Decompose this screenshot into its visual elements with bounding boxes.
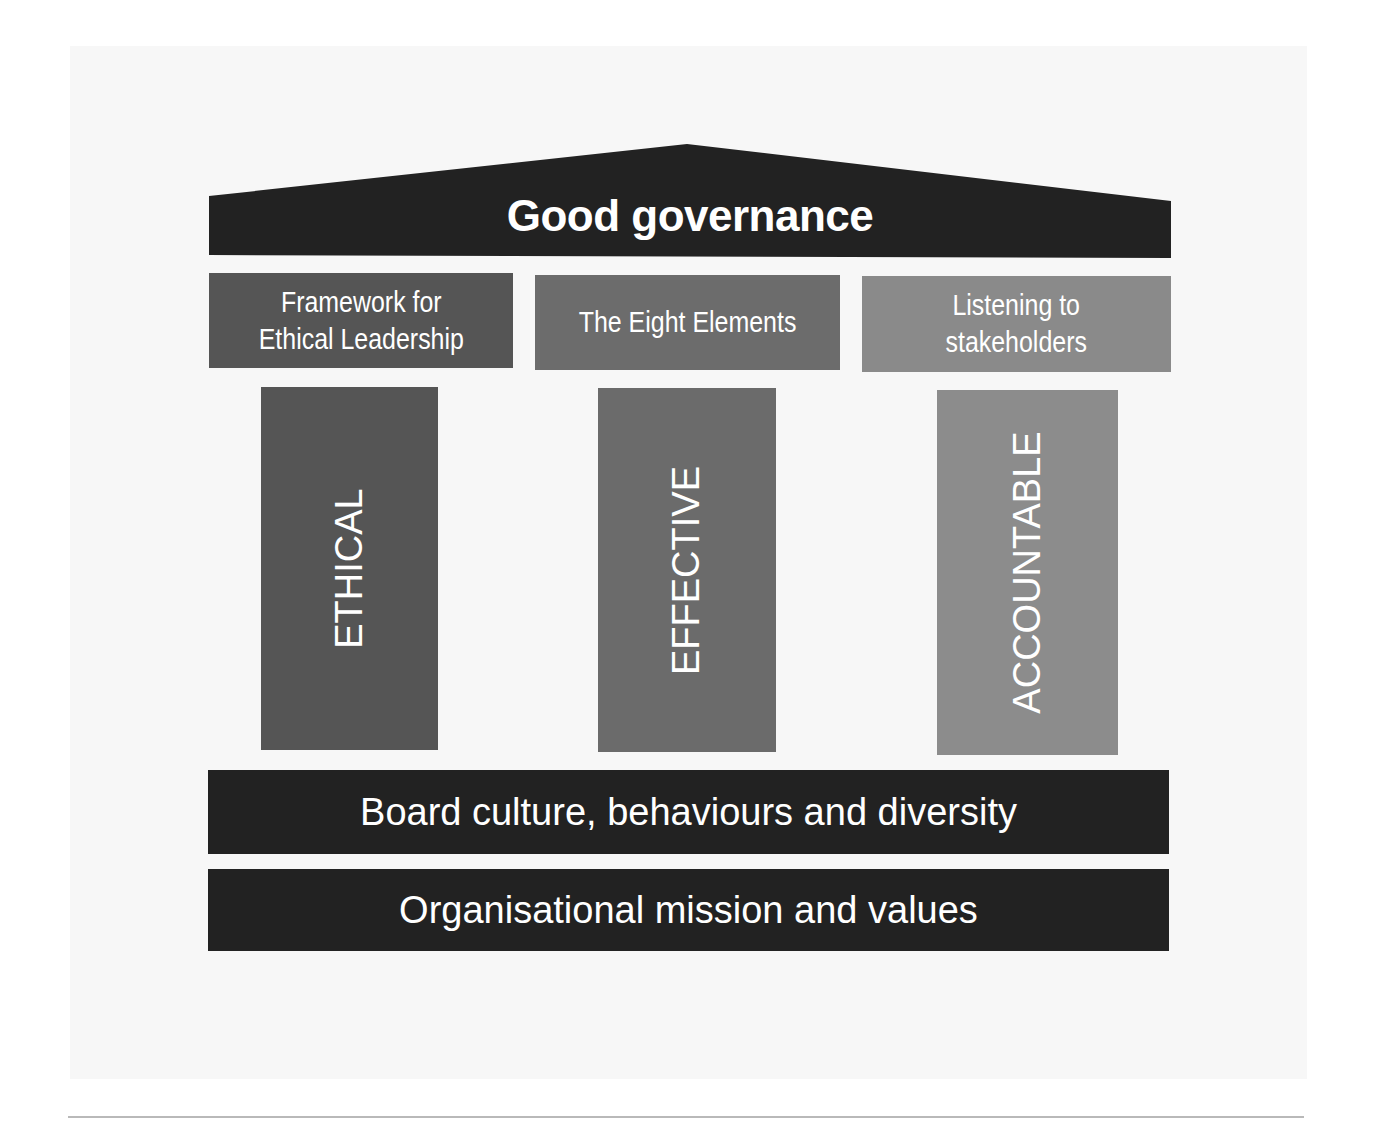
pillar-label: ETHICAL [328, 488, 371, 648]
bottom-divider [68, 1116, 1304, 1118]
foundation-label: Organisational mission and values [399, 889, 978, 932]
framework-box-listening-stakeholders: Listening to stakeholders [862, 276, 1171, 372]
pillar-label: ACCOUNTABLE [1006, 431, 1049, 713]
pillar-accountable: ACCOUNTABLE [937, 390, 1118, 755]
framework-box-ethical-leadership: Framework for Ethical Leadership [209, 273, 513, 368]
framework-box-eight-elements: The Eight Elements [535, 275, 840, 370]
framework-box-line1: Listening to [946, 287, 1087, 324]
roof-title: Good governance [209, 188, 1171, 244]
framework-box-line1: The Eight Elements [579, 304, 797, 341]
foundation-label: Board culture, behaviours and diversity [360, 791, 1017, 834]
framework-box-line1: Framework for [258, 284, 463, 321]
framework-box-line2: Ethical Leadership [258, 321, 463, 358]
framework-box-line2: stakeholders [946, 324, 1087, 361]
foundation-board-culture: Board culture, behaviours and diversity [208, 770, 1169, 854]
foundation-organisational-mission: Organisational mission and values [208, 869, 1169, 951]
pillar-label: EFFECTIVE [666, 465, 709, 674]
pillar-effective: EFFECTIVE [598, 388, 776, 752]
pillar-ethical: ETHICAL [261, 387, 438, 750]
